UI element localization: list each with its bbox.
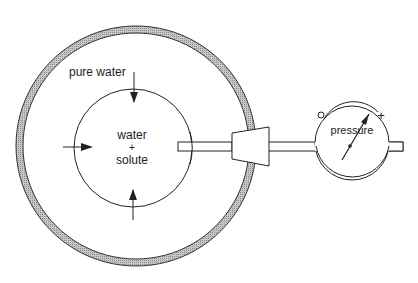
plus-label: + (129, 142, 135, 153)
connector (232, 127, 269, 166)
gauge-plus-label: + (377, 108, 385, 123)
pure-water-label: pure water (69, 65, 126, 79)
osmosis-diagram: pure water water + solute pressure + (0, 0, 418, 283)
solute-label: solute (116, 153, 148, 167)
pressure-gauge (315, 102, 403, 180)
water-label: water (116, 128, 146, 142)
pressure-label: pressure (331, 124, 374, 136)
gauge-zero-mark (318, 112, 324, 118)
